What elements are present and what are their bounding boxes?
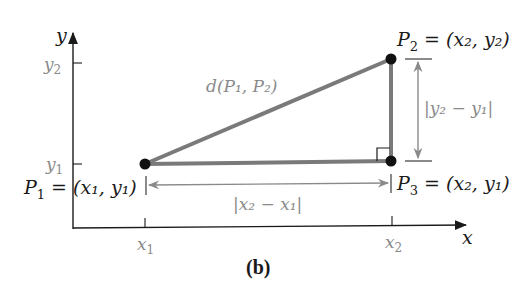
- hypotenuse: [145, 59, 391, 164]
- right-triangle: [145, 59, 391, 164]
- x1-tick-label: x1: [137, 234, 154, 257]
- horizontal-dimension: [146, 174, 391, 195]
- figure-caption: (b): [246, 256, 270, 279]
- p1-label: P1 = (x₁, y₁): [23, 176, 137, 202]
- y2-tick-label: y2: [43, 54, 61, 77]
- y1-tick-label: y1: [45, 154, 63, 177]
- horizontal-leg: [145, 161, 391, 164]
- x2-tick-label: x2: [385, 232, 402, 255]
- x-axis-label: x: [462, 226, 473, 248]
- distance-formula-diagram: y x y2 y1 x1 x2 |x₂ − x₁| |y₂ − y₁| d(P₁…: [0, 0, 521, 299]
- horizontal-distance-label: |x₂ − x₁|: [233, 194, 302, 214]
- p3-label: P3 = (x₂, y₁): [396, 172, 510, 198]
- point-p3: [386, 156, 397, 167]
- point-p2: [386, 54, 397, 65]
- y-axis-label: y: [55, 24, 67, 46]
- x-axis: [73, 225, 466, 228]
- distance-label: d(P₁, P₂): [206, 76, 277, 96]
- p2-label: P2 = (x₂, y₂): [396, 28, 510, 54]
- vertical-distance-label: |y₂ − y₁|: [424, 98, 493, 118]
- point-p1: [140, 159, 151, 170]
